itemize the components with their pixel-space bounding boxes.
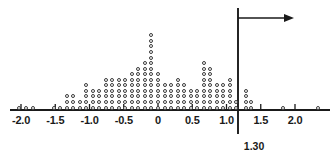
data-dot	[208, 100, 212, 104]
data-dot	[149, 89, 153, 93]
data-dot	[169, 89, 173, 93]
data-dot	[202, 100, 206, 104]
data-dot	[234, 106, 238, 110]
data-dot	[163, 100, 167, 104]
data-dot	[123, 106, 127, 110]
data-dot	[149, 56, 153, 60]
data-dot	[249, 106, 253, 110]
data-dot	[78, 106, 82, 110]
data-dot	[104, 89, 108, 93]
data-dot	[104, 100, 108, 104]
x-axis-tick-label: 0.5	[185, 114, 200, 126]
data-dot	[169, 106, 173, 110]
data-dot	[65, 106, 69, 110]
data-dot	[117, 100, 121, 104]
data-dot	[149, 39, 153, 43]
data-dot	[169, 100, 173, 104]
data-dot	[182, 100, 186, 104]
data-dot	[130, 100, 134, 104]
data-dot	[58, 106, 62, 110]
x-axis-tick-label: 0	[155, 114, 161, 126]
data-dot	[130, 89, 134, 93]
data-dot	[123, 89, 127, 93]
data-dot	[130, 106, 134, 110]
data-dot	[97, 100, 101, 104]
x-axis-tick-label: -2.0	[12, 114, 30, 126]
data-dot	[104, 106, 108, 110]
data-dot	[84, 100, 88, 104]
data-dot	[17, 106, 21, 110]
data-dot	[24, 106, 28, 110]
data-dot	[110, 89, 114, 93]
data-dot	[176, 100, 180, 104]
data-dot	[71, 100, 75, 104]
data-dot	[208, 89, 212, 93]
data-dot	[202, 67, 206, 71]
data-dot	[143, 100, 147, 104]
data-dot	[136, 89, 140, 93]
data-dot	[123, 78, 127, 82]
data-dot	[228, 106, 232, 110]
data-dot	[78, 100, 82, 104]
dotplot-figure: -2.0-1.5-1.0-0.500.51.01.52.0 1.30	[0, 0, 333, 162]
data-dot	[156, 89, 160, 93]
data-dot	[202, 89, 206, 93]
data-dot	[189, 106, 193, 110]
data-dot	[195, 89, 199, 93]
data-dot	[136, 106, 140, 110]
data-dot	[163, 106, 167, 110]
data-dot	[221, 89, 225, 93]
data-dot	[117, 89, 121, 93]
x-axis-tick-label: -1.5	[46, 114, 64, 126]
data-dot	[215, 100, 219, 104]
data-dot	[143, 67, 147, 71]
data-dot	[149, 78, 153, 82]
right-arrowhead-icon	[284, 14, 294, 22]
data-dot	[215, 89, 219, 93]
data-dot	[228, 78, 232, 82]
data-dot	[91, 100, 95, 104]
data-dot	[221, 106, 225, 110]
data-dot	[110, 78, 114, 82]
data-dot	[195, 100, 199, 104]
x-axis-tick-label: 2.0	[288, 114, 303, 126]
x-axis-tick-label: -1.0	[80, 114, 98, 126]
data-dot	[104, 78, 108, 82]
data-dot	[234, 100, 238, 104]
plot-canvas	[0, 0, 333, 162]
data-dot	[71, 106, 75, 110]
data-dot	[195, 106, 199, 110]
data-dot	[156, 106, 160, 110]
cutoff-value-label: 1.30	[244, 140, 264, 152]
data-dot	[91, 106, 95, 110]
x-axis-tick-label: 1.0	[219, 114, 234, 126]
data-dot	[182, 89, 186, 93]
data-dot	[215, 106, 219, 110]
data-dot	[65, 100, 69, 104]
data-dot	[208, 78, 212, 82]
data-dot	[97, 106, 101, 110]
data-dot	[202, 78, 206, 82]
data-dot	[143, 78, 147, 82]
data-dot	[149, 67, 153, 71]
data-dot	[149, 106, 153, 110]
x-axis-tick-label: 1.5	[253, 114, 268, 126]
data-dot	[97, 89, 101, 93]
data-dot	[189, 100, 193, 104]
data-dot	[31, 106, 35, 110]
data-dot	[316, 106, 320, 110]
data-dot	[244, 106, 248, 110]
x-axis-tick-label: -0.5	[115, 114, 133, 126]
data-dot	[84, 106, 88, 110]
data-dot	[202, 61, 206, 65]
data-dot	[136, 67, 140, 71]
data-dot	[156, 100, 160, 104]
data-dot	[176, 78, 180, 82]
data-dot	[208, 67, 212, 71]
data-dot	[130, 78, 134, 82]
data-dot	[84, 89, 88, 93]
data-dot	[281, 106, 285, 110]
data-dot	[176, 89, 180, 93]
data-dot	[143, 106, 147, 110]
data-dot	[182, 106, 186, 110]
